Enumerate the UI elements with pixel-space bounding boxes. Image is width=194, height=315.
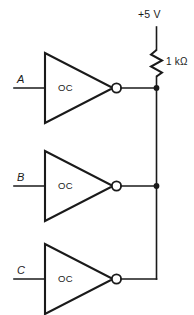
gate-c-triangle — [45, 244, 113, 314]
gate-b-triangle — [45, 151, 113, 221]
resistor-value-label: 1 kΩ — [166, 57, 188, 67]
gate-b-inversion-bubble — [112, 181, 121, 190]
gate-c-body-label: OC — [58, 274, 73, 284]
gate-c-inversion-bubble — [112, 274, 121, 283]
gate-b-body-label: OC — [58, 181, 73, 191]
gate-a-triangle — [45, 53, 113, 123]
gate-a-input-label: A — [17, 74, 24, 85]
schematic-canvas: +5 V 1 kΩ OC OC OC A B C — [0, 0, 194, 315]
circuit-schematic — [0, 0, 194, 315]
gate-a-inversion-bubble — [112, 83, 121, 92]
gate-a-output-junction-dot — [154, 85, 160, 91]
supply-voltage-label: +5 V — [138, 9, 161, 20]
gate-b-output-junction-dot — [154, 183, 160, 189]
gate-b-input-label: B — [17, 172, 24, 183]
pull-up-resistor-symbol — [151, 50, 162, 77]
gate-a-body-label: OC — [58, 83, 73, 93]
gate-c-input-label: C — [17, 265, 25, 276]
